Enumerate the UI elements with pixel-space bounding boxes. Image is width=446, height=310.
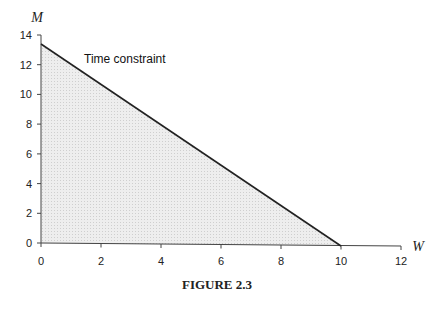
chart: 14 12 10 8 6 4 2 0 0 2 4 6 8 10 12 M W T… bbox=[0, 0, 446, 310]
x-tick-label: 8 bbox=[278, 255, 284, 267]
x-axis-label: W bbox=[412, 239, 425, 254]
x-tick-label: 2 bbox=[98, 255, 104, 267]
y-tick-label: 10 bbox=[20, 88, 32, 100]
x-tick-label: 4 bbox=[158, 255, 164, 267]
y-tick-label: 0 bbox=[26, 237, 32, 249]
x-tick-label: 0 bbox=[38, 255, 44, 267]
y-tick-label: 8 bbox=[26, 118, 32, 130]
x-tick-label: 6 bbox=[218, 255, 224, 267]
y-tick-label: 6 bbox=[26, 148, 32, 160]
y-tick-label: 2 bbox=[26, 207, 32, 219]
figure-caption: FIGURE 2.3 bbox=[182, 277, 253, 292]
y-tick-label: 12 bbox=[20, 59, 32, 71]
y-tick-label: 4 bbox=[26, 178, 32, 190]
y-tick-label: 14 bbox=[20, 29, 32, 41]
y-axis-label: M bbox=[30, 10, 44, 25]
y-ticks bbox=[37, 35, 41, 243]
time-constraint-annotation: Time constraint bbox=[84, 52, 166, 66]
x-tick-label: 10 bbox=[335, 255, 347, 267]
x-tick-label: 12 bbox=[395, 255, 407, 267]
